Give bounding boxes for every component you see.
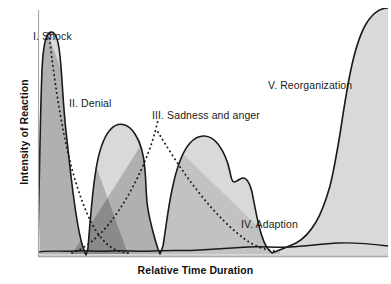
- chart-plot-area: [0, 0, 391, 284]
- y-axis-title: Intensity of Reaction: [18, 62, 30, 202]
- phase-label-adaption: IV. Adaption: [241, 219, 298, 230]
- grief-curve-chart: I. Shock II. Denial III. Sadness and ang…: [0, 0, 391, 284]
- phase-label-reorganization: V. Reorganization: [268, 80, 352, 91]
- x-axis-title: Relative Time Duration: [0, 264, 391, 276]
- phase-label-sadness-and-anger: III. Sadness and anger: [152, 110, 260, 121]
- phase-label-shock: I. Shock: [33, 31, 72, 42]
- phase-label-denial: II. Denial: [69, 98, 111, 109]
